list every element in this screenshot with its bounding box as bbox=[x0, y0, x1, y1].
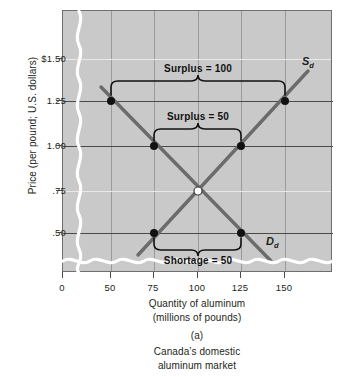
x-tick-mark-125 bbox=[240, 272, 241, 278]
x-tick-label-0: 0 bbox=[42, 282, 82, 293]
x-tick-mark-75 bbox=[153, 272, 154, 278]
supply-curve-label: Sd bbox=[302, 55, 314, 70]
x-tick-mark-0 bbox=[62, 272, 63, 278]
annotation-shortage-50: Shortage = 50 bbox=[135, 255, 261, 266]
demand-curve-label: Dd bbox=[266, 235, 279, 250]
panel-letter: (a) bbox=[62, 330, 332, 341]
annotation-surplus-50: Surplus = 50 bbox=[138, 111, 258, 122]
supply-curve-label-sub: d bbox=[309, 61, 314, 70]
demand-curve-label-text: D bbox=[266, 235, 274, 247]
figure-supply-demand-canada-aluminum: Surplus = 100 Surplus = 50 Shortage = 50… bbox=[0, 0, 344, 377]
marker-150-1.25 bbox=[281, 97, 289, 105]
bracket-surplus-50 bbox=[154, 123, 241, 141]
x-axis-title-line2: (millions of pounds) bbox=[62, 312, 332, 323]
marker-75-0.50 bbox=[150, 229, 158, 237]
x-tick-label-50: 50 bbox=[90, 282, 130, 293]
y-tick-mark-1-50 bbox=[56, 58, 63, 59]
x-tick-label-125: 125 bbox=[220, 282, 260, 293]
figure-subtitle-line2: aluminum market bbox=[62, 360, 332, 371]
x-tick-label-75: 75 bbox=[133, 282, 173, 293]
marker-125-1.00 bbox=[237, 142, 245, 150]
y-tick-mark-1-00 bbox=[56, 145, 63, 146]
bracket-shortage-50 bbox=[154, 238, 241, 256]
annotation-surplus-100: Surplus = 100 bbox=[118, 63, 278, 74]
x-tick-mark-50 bbox=[110, 272, 111, 278]
marker-75-1.00 bbox=[150, 142, 158, 150]
marker-125-0.50 bbox=[237, 229, 245, 237]
x-tick-label-100: 100 bbox=[177, 282, 217, 293]
y-tick-mark-0-50 bbox=[56, 232, 63, 233]
axis-break-vertical bbox=[77, 11, 80, 273]
curves-layer bbox=[63, 11, 333, 273]
x-tick-mark-100 bbox=[197, 272, 198, 278]
x-tick-mark-150 bbox=[284, 272, 285, 278]
marker-equilibrium-100-0.75 bbox=[194, 187, 202, 195]
y-tick-mark-0-75 bbox=[56, 190, 63, 191]
plot-area: Surplus = 100 Surplus = 50 Shortage = 50… bbox=[62, 10, 332, 272]
x-tick-label-150: 150 bbox=[264, 282, 304, 293]
marker-50-1.25 bbox=[107, 97, 115, 105]
demand-curve-label-sub: d bbox=[274, 241, 279, 250]
bracket-surplus-100 bbox=[111, 75, 285, 95]
y-axis-title: Price (per pound; U.S. dollars) bbox=[27, 31, 38, 221]
x-axis-title-line1: Quantity of aluminum bbox=[62, 298, 332, 309]
y-tick-mark-1-25 bbox=[56, 100, 63, 101]
figure-subtitle-line1: Canada’s domestic bbox=[62, 346, 332, 357]
